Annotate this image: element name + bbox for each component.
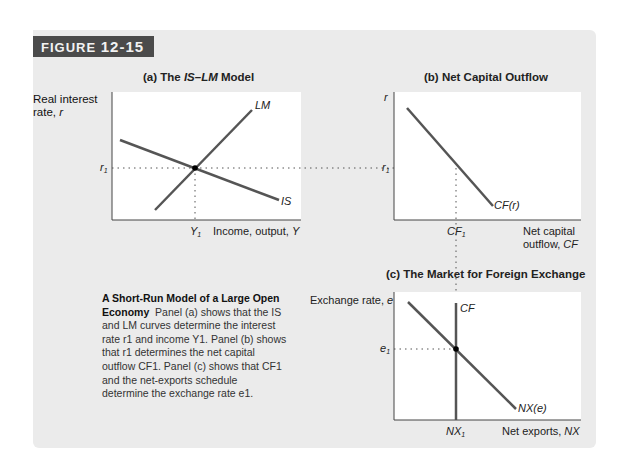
r1-tick-a-sub: 1 xyxy=(104,167,108,174)
r1-tick-b: r1 xyxy=(382,161,390,177)
panel-a-y-axis-label: Real interest rate, r xyxy=(33,93,98,119)
panel-b-x-axis-label-line2: outflow, xyxy=(523,238,563,250)
panel-c-x-axis-label-text: Net exports, xyxy=(502,425,564,437)
cf-r-curve-label: CF(r) xyxy=(494,199,520,212)
nx1-tick-var: NX xyxy=(446,425,461,437)
panel-a-x-axis-var: Y xyxy=(292,225,299,237)
cf1-tick-sub: 1 xyxy=(462,231,466,238)
cf1-tick: CF1 xyxy=(447,225,466,241)
nx1-tick: NX1 xyxy=(446,425,465,441)
panel-a-x-axis-label: Income, output, Y xyxy=(213,225,299,238)
y1-tick: Y1 xyxy=(190,225,201,241)
cf1-tick-var: CF xyxy=(447,225,462,237)
y1-tick-sub: 1 xyxy=(197,231,201,238)
e1-tick: e1 xyxy=(380,342,390,358)
caption-body: Panel (a) shows that the IS and LM curve… xyxy=(102,306,286,400)
lm-curve-label: LM xyxy=(255,99,270,112)
is-curve-label: IS xyxy=(281,195,291,208)
panel-a-y-axis-var: r xyxy=(59,106,63,118)
panel-b-y-axis-label: r xyxy=(384,91,388,104)
e1-tick-sub: 1 xyxy=(386,348,390,355)
nx-e-curve-label: NX(e) xyxy=(518,402,547,415)
panel-c-x-axis-var: NX xyxy=(564,425,579,437)
plot-c-area xyxy=(394,292,581,420)
panel-a-y-axis-label-line2: rate, xyxy=(33,106,59,118)
cf-vertical-label: CF xyxy=(460,302,475,315)
nx1-tick-sub: 1 xyxy=(461,431,465,438)
panel-a-x-axis-label-text: Income, output, xyxy=(213,225,292,237)
panel-c-y-axis-label-text: Exchange rate, xyxy=(310,294,387,306)
panel-b-x-axis-label: Net capital outflow, CF xyxy=(523,225,578,251)
r1-tick-b-sub: 1 xyxy=(386,167,390,174)
figure-caption: A Short-Run Model of a Large Open Econom… xyxy=(102,292,287,401)
panel-b-x-axis-label-line1: Net capital xyxy=(523,225,578,238)
panel-c-y-axis-label: Exchange rate, e xyxy=(310,294,393,307)
panel-c-x-axis-label: Net exports, NX xyxy=(502,425,580,438)
panel-c-y-axis-var: e xyxy=(387,294,393,306)
panel-a-y-axis-label-line1: Real interest xyxy=(33,93,98,106)
panel-b-x-axis-var: CF xyxy=(563,238,578,250)
equilibrium-point-c xyxy=(453,346,459,352)
r1-tick-a: r1 xyxy=(100,161,108,177)
equilibrium-point-a xyxy=(192,165,198,171)
